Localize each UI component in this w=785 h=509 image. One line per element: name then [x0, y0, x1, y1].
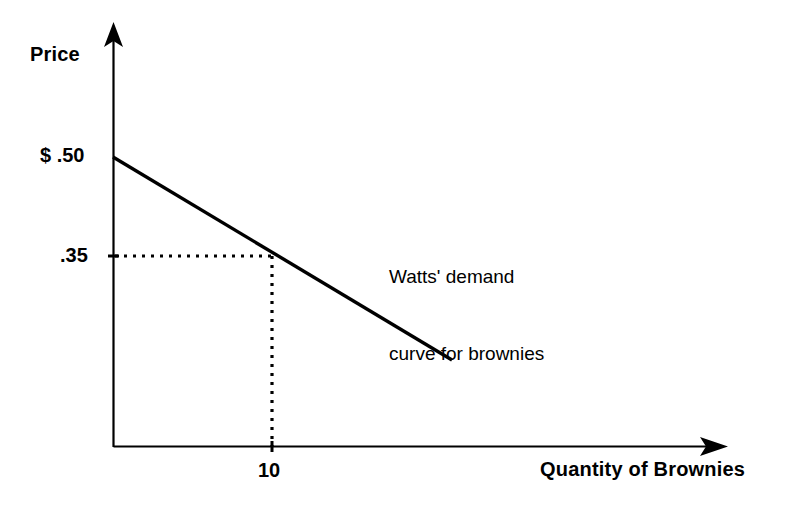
curve-annotation: Watts' demand curve for brownies [389, 213, 544, 418]
x-axis-tick-label-10: 10 [258, 459, 280, 482]
y-axis-title: Price [30, 43, 80, 66]
curve-annotation-line-2: curve for brownies [389, 341, 544, 367]
x-axis-title: Quantity of Brownies [540, 458, 745, 481]
chart-canvas: Price $ .50 .35 10 Quantity of Brownies … [0, 0, 785, 509]
curve-annotation-line-1: Watts' demand [389, 264, 544, 290]
y-axis-tick-label-035: .35 [60, 244, 88, 267]
y-axis-tick-label-050: $ .50 [40, 144, 84, 167]
